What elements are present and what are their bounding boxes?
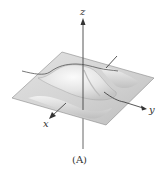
- figure-caption: (A): [72, 154, 87, 165]
- surface-plot-figure: z y x (A): [0, 0, 166, 180]
- z-axis-label: z: [79, 6, 86, 17]
- x-axis-label: x: [43, 118, 49, 129]
- z-axis-arrowhead: [81, 18, 86, 25]
- y-axis-arrowhead: [141, 106, 147, 111]
- y-axis-label: y: [148, 104, 155, 115]
